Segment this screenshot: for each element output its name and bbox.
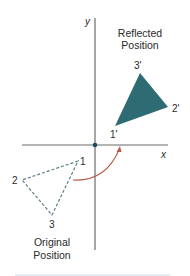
original-title-line1: Original: [34, 236, 70, 248]
original-title-line2: Position: [33, 249, 71, 261]
original-triangle: [22, 161, 78, 215]
reflected-title-line2: Position: [121, 39, 159, 51]
reflected-triangle: [115, 73, 168, 126]
vertex-label-3-prime: 3': [134, 60, 142, 71]
vertex-label-2: 2: [12, 175, 18, 186]
origin-dot: [93, 143, 98, 148]
y-axis-label: y: [84, 16, 91, 27]
x-axis-label: x: [160, 149, 167, 160]
vertex-label-2-prime: 2': [172, 103, 180, 114]
arrowhead-icon: [117, 146, 122, 152]
vertex-label-1-prime: 1': [110, 129, 118, 140]
vertex-label-3: 3: [49, 219, 55, 230]
vertex-label-1: 1: [80, 156, 86, 167]
reflected-title-line1: Reflected: [118, 27, 163, 39]
reflection-diagram: y x 3' 2' 1' Reflected Position 1 2 3 Or…: [0, 0, 190, 276]
